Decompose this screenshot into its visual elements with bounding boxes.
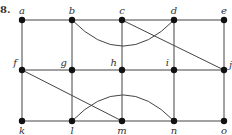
graph-diagram: 8. abcdefghijklmno xyxy=(0,0,232,135)
node-b xyxy=(69,17,75,23)
node-label-m: m xyxy=(117,125,126,135)
node-label-l: l xyxy=(70,125,73,135)
node-c xyxy=(119,17,125,23)
node-label-g: g xyxy=(61,57,67,68)
node-label-k: k xyxy=(19,125,25,135)
node-j xyxy=(221,67,227,73)
node-i xyxy=(171,67,177,73)
node-m xyxy=(119,118,125,124)
node-g xyxy=(69,67,75,73)
node-o xyxy=(221,118,227,124)
figure-label: 8. xyxy=(0,4,10,15)
node-label-e: e xyxy=(221,5,227,16)
node-f xyxy=(19,67,25,73)
node-label-a: a xyxy=(19,5,25,16)
node-label-j: j xyxy=(227,59,232,70)
node-n xyxy=(171,118,177,124)
node-label-f: f xyxy=(12,57,19,68)
node-label-i: i xyxy=(166,57,169,68)
node-label-c: c xyxy=(119,5,125,16)
node-e xyxy=(221,17,227,23)
node-label-b: b xyxy=(69,5,75,16)
node-label-h: h xyxy=(111,57,117,68)
node-d xyxy=(171,17,177,23)
node-label-n: n xyxy=(171,125,177,135)
arc-edge-b-d xyxy=(72,20,174,46)
node-k xyxy=(19,118,25,124)
node-label-d: d xyxy=(171,5,177,16)
node-a xyxy=(19,17,25,23)
node-label-o: o xyxy=(221,125,227,135)
node-l xyxy=(69,118,75,124)
arc-edge-l-n xyxy=(72,95,174,121)
node-h xyxy=(119,67,125,73)
edge-c-j xyxy=(122,20,224,70)
